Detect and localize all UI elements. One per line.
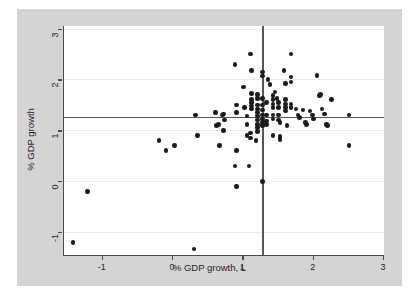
- data-point: [289, 52, 294, 57]
- x-axis-tick: [313, 256, 314, 260]
- data-point: [278, 120, 283, 125]
- gridline: [64, 232, 384, 233]
- data-point: [249, 68, 254, 73]
- data-point: [245, 122, 250, 127]
- data-point: [216, 122, 221, 127]
- data-point: [222, 118, 227, 123]
- data-point: [276, 105, 281, 110]
- data-point: [322, 112, 327, 117]
- gridline: [64, 29, 384, 30]
- data-point: [157, 138, 162, 143]
- gridline: [64, 181, 384, 182]
- data-point: [260, 108, 265, 113]
- data-point: [248, 136, 253, 141]
- data-point: [164, 148, 169, 153]
- data-point: [329, 97, 334, 102]
- data-point: [221, 128, 226, 133]
- y-axis-tick-label: 0: [50, 180, 60, 194]
- data-point: [213, 110, 218, 115]
- x-axis-tick: [383, 256, 384, 260]
- data-point: [301, 108, 306, 113]
- data-point: [241, 85, 246, 90]
- data-point: [276, 100, 281, 105]
- x-axis-label: % GDP growth, L: [17, 262, 402, 273]
- data-point: [264, 122, 269, 127]
- data-point: [271, 105, 276, 110]
- data-point: [255, 129, 260, 134]
- data-point: [249, 91, 254, 96]
- data-point: [294, 107, 299, 112]
- data-point: [248, 131, 253, 136]
- data-point: [283, 109, 288, 114]
- data-point: [85, 189, 90, 194]
- data-point: [254, 138, 259, 143]
- data-point: [192, 247, 197, 252]
- data-point: [195, 133, 200, 138]
- data-point: [347, 143, 352, 148]
- gridline: [64, 79, 384, 80]
- vertical-reference-line: [262, 26, 263, 255]
- data-point: [289, 105, 294, 110]
- data-point: [233, 62, 238, 67]
- data-point: [318, 92, 323, 97]
- data-point: [283, 81, 288, 86]
- x-axis-tick: [102, 256, 103, 260]
- plot-area: [63, 26, 384, 256]
- data-point: [264, 100, 269, 105]
- y-axis-tick-label: -1: [50, 231, 60, 245]
- data-point: [271, 117, 276, 122]
- data-point: [248, 52, 253, 57]
- data-point: [234, 184, 239, 189]
- data-point: [304, 122, 309, 127]
- data-point: [242, 105, 247, 110]
- data-point: [249, 107, 254, 112]
- data-point: [268, 82, 273, 87]
- y-axis-tick-label: 1: [50, 129, 60, 143]
- data-point: [233, 164, 238, 169]
- data-point: [297, 115, 302, 120]
- data-point: [172, 143, 177, 148]
- data-point: [276, 113, 281, 118]
- data-point: [289, 80, 294, 85]
- data-point: [260, 74, 265, 79]
- figure-panel: -10123-10123 % GDP growth, L % GDP growt…: [17, 9, 402, 286]
- x-axis-tick: [172, 256, 173, 260]
- data-point: [234, 148, 239, 153]
- data-point: [311, 117, 316, 122]
- data-point: [217, 143, 222, 148]
- data-point: [266, 77, 271, 82]
- data-point: [264, 113, 269, 118]
- data-point: [234, 103, 239, 108]
- y-axis-tick-label: 2: [50, 78, 60, 92]
- data-point: [234, 110, 239, 115]
- x-axis-tick: [242, 256, 243, 260]
- data-point: [278, 137, 283, 142]
- data-point: [260, 179, 265, 184]
- data-point: [247, 164, 252, 169]
- y-axis-label: % GDP growth: [25, 90, 36, 190]
- data-point: [271, 133, 276, 138]
- data-point: [325, 123, 330, 128]
- data-point: [285, 123, 290, 128]
- data-point: [282, 68, 287, 73]
- data-point: [255, 96, 260, 101]
- data-point: [193, 113, 198, 118]
- data-point: [315, 73, 320, 78]
- data-point: [320, 107, 325, 112]
- data-point: [71, 240, 76, 245]
- plot-wrapper: -10123-10123 % GDP growth, L % GDP growt…: [17, 9, 402, 286]
- data-point: [273, 90, 278, 95]
- y-axis-tick-label: 3: [50, 28, 60, 42]
